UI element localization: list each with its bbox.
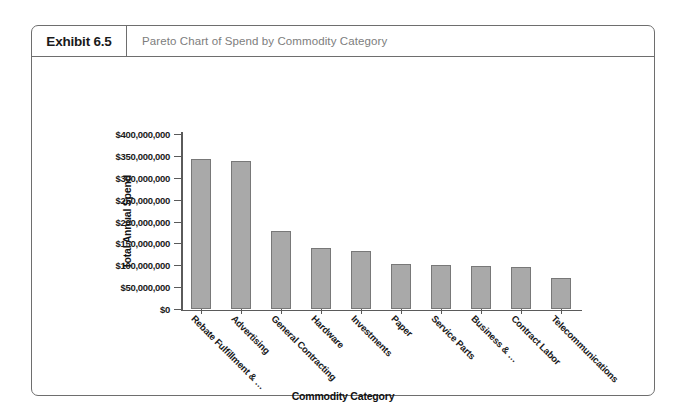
bar <box>511 267 531 309</box>
x-axis-tick <box>401 309 402 314</box>
bar <box>231 161 251 309</box>
exhibit-frame: Exhibit 6.5 Pareto Chart of Spend by Com… <box>31 25 655 396</box>
y-axis-tick-label: $150,000,000 <box>115 238 170 249</box>
x-axis-tick <box>521 309 522 314</box>
x-axis-tick <box>241 309 242 314</box>
y-axis-tick <box>174 200 181 201</box>
x-axis-tick <box>321 309 322 314</box>
bar <box>271 231 291 309</box>
x-axis-tick <box>481 309 482 314</box>
chart-area: Total Annual Spend $0$50,000,000$100,000… <box>32 57 654 397</box>
x-axis-tick <box>441 309 442 314</box>
x-axis-title: Commodity Category <box>32 390 654 402</box>
y-axis-tick <box>174 178 181 179</box>
bar <box>551 278 571 310</box>
x-axis-tick <box>361 309 362 314</box>
y-axis-tick <box>174 309 181 310</box>
y-axis-tick <box>174 134 181 135</box>
y-axis-tick-label: $50,000,000 <box>120 282 170 293</box>
y-axis-tick-label: $100,000,000 <box>115 260 170 271</box>
bar <box>471 266 491 309</box>
y-axis-tick-label: $300,000,000 <box>115 172 170 183</box>
bar <box>311 248 331 309</box>
bar <box>391 264 411 309</box>
y-axis-tick-label: $200,000,000 <box>115 216 170 227</box>
y-axis-tick <box>174 287 181 288</box>
x-axis-tick-label: Advertising <box>229 313 272 356</box>
y-axis-tick <box>174 243 181 244</box>
bar <box>351 251 371 309</box>
x-axis-tick-label: General Contracting <box>269 313 339 383</box>
x-axis-tick-label: Hardware <box>309 313 346 350</box>
x-axis-tick-label: Telecommunications <box>549 313 621 385</box>
x-axis-tick <box>201 309 202 314</box>
exhibit-number: Exhibit 6.5 <box>32 26 127 56</box>
y-axis-tick-label: $250,000,000 <box>115 194 170 205</box>
y-axis-tick <box>174 265 181 266</box>
x-axis-tick-label: Investments <box>349 313 394 358</box>
exhibit-title: Pareto Chart of Spend by Commodity Categ… <box>127 26 654 56</box>
y-axis-tick-label: $0 <box>160 304 170 315</box>
x-axis-tick <box>281 309 282 314</box>
y-axis-tick-label: $350,000,000 <box>115 150 170 161</box>
bar <box>191 159 211 310</box>
x-axis-tick-label: Rebate Fulfillment & … <box>189 313 267 391</box>
plot-area: $0$50,000,000$100,000,000$150,000,000$20… <box>181 134 581 309</box>
bar <box>431 265 451 309</box>
y-axis-tick-label: $400,000,000 <box>115 129 170 140</box>
exhibit-header: Exhibit 6.5 Pareto Chart of Spend by Com… <box>32 26 654 57</box>
y-axis-tick <box>174 156 181 157</box>
x-axis-tick <box>561 309 562 314</box>
y-axis-tick <box>174 222 181 223</box>
x-axis-tick-label: Paper <box>389 313 415 339</box>
